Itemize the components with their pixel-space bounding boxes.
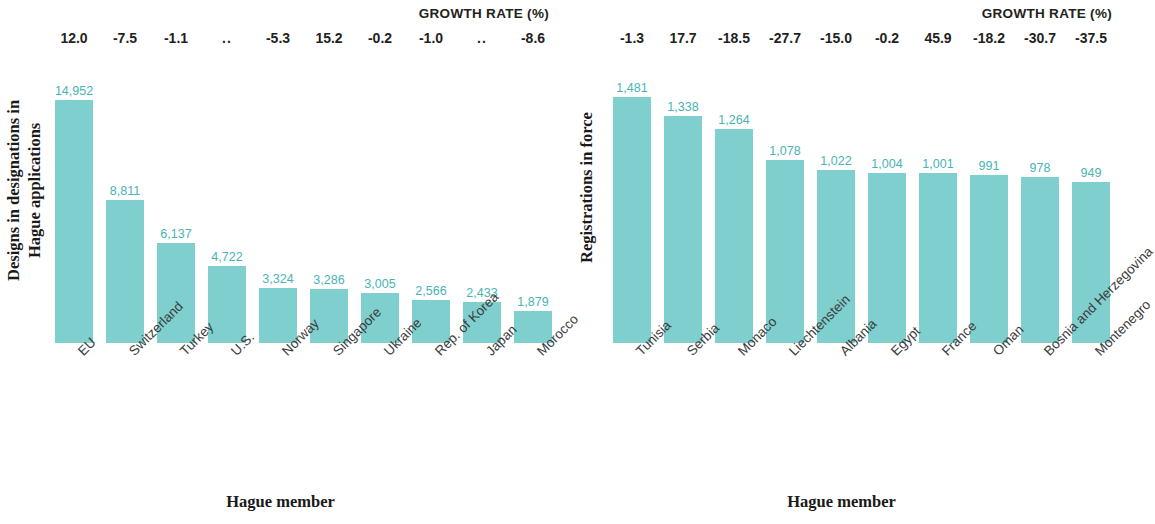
bar-value-label: 978 <box>1030 161 1051 175</box>
bar[interactable] <box>766 160 804 343</box>
bar-column[interactable]: 1,078 <box>766 85 804 343</box>
y-axis-title-left: Designs in designations in Hague applica… <box>4 70 45 310</box>
bar-column[interactable]: 1,879 <box>514 85 552 343</box>
growth-rate-value: -5.3 <box>253 30 303 46</box>
growth-rate-value: -1.3 <box>607 30 657 46</box>
bar-value-label: 3,324 <box>262 272 293 286</box>
growth-rate-header-left: GROWTH RATE (%) <box>419 6 549 21</box>
bar-value-label: 1,338 <box>667 100 698 114</box>
bar-value-label: 3,286 <box>313 273 344 287</box>
bar-column[interactable]: 1,004 <box>868 85 906 343</box>
bar-value-label: 1,078 <box>769 144 800 158</box>
bar-value-label: 4,722 <box>211 250 242 264</box>
growth-rate-value: -1.0 <box>406 30 456 46</box>
growth-rate-value: 45.9 <box>913 30 963 46</box>
bar[interactable] <box>919 173 957 343</box>
growth-rate-value: -18.5 <box>709 30 759 46</box>
bar[interactable] <box>1021 177 1059 343</box>
chart-panel-right: GROWTH RATE (%) -1.317.7-18.5-27.7-15.0-… <box>561 0 1122 524</box>
growth-rate-value: 15.2 <box>304 30 354 46</box>
chart-panel-left: GROWTH RATE (%) 12.0-7.5-1.1..-5.315.2-0… <box>0 0 561 524</box>
bar-value-label: 14,952 <box>55 84 93 98</box>
bar[interactable] <box>868 173 906 343</box>
growth-rate-value: .. <box>202 30 252 46</box>
growth-rate-value: -7.5 <box>100 30 150 46</box>
bar-value-label: 2,566 <box>415 284 446 298</box>
growth-rate-value: -0.2 <box>862 30 912 46</box>
bar[interactable] <box>715 129 753 343</box>
bar-value-label: 1,264 <box>718 113 749 127</box>
growth-rate-value: -15.0 <box>811 30 861 46</box>
bar[interactable] <box>55 100 93 343</box>
bar[interactable] <box>970 175 1008 343</box>
plot-area-right: 1,4811,3381,2641,0781,0221,0041,00199197… <box>613 85 1113 343</box>
bar-column[interactable]: 3,005 <box>361 85 399 343</box>
growth-rate-value: -30.7 <box>1015 30 1065 46</box>
growth-rate-value: 17.7 <box>658 30 708 46</box>
bar-column[interactable]: 1,338 <box>664 85 702 343</box>
bar-column[interactable]: 1,481 <box>613 85 651 343</box>
growth-rate-value: .. <box>457 30 507 46</box>
bar-column[interactable]: 1,001 <box>919 85 957 343</box>
bar-column[interactable]: 3,286 <box>310 85 348 343</box>
bar-column[interactable]: 8,811 <box>106 85 144 343</box>
growth-rate-value: 12.0 <box>49 30 99 46</box>
growth-rate-value: -37.5 <box>1066 30 1116 46</box>
x-axis-title-right: Hague member <box>561 492 1122 512</box>
bar-column[interactable]: 991 <box>970 85 1008 343</box>
growth-rate-value: -8.6 <box>508 30 558 46</box>
bar[interactable] <box>613 97 651 343</box>
bar-value-label: 991 <box>979 159 1000 173</box>
bar-value-label: 1,001 <box>922 157 953 171</box>
bar-value-label: 1,481 <box>616 81 647 95</box>
bar-column[interactable]: 14,952 <box>55 85 93 343</box>
bar-column[interactable]: 3,324 <box>259 85 297 343</box>
bar-value-label: 949 <box>1081 166 1102 180</box>
bar-column[interactable]: 978 <box>1021 85 1059 343</box>
bar-value-label: 1,004 <box>871 157 902 171</box>
growth-rate-value: -27.7 <box>760 30 810 46</box>
bar-column[interactable]: 4,722 <box>208 85 246 343</box>
bar-value-label: 1,022 <box>820 154 851 168</box>
bar-column[interactable]: 2,566 <box>412 85 450 343</box>
growth-rate-value: -0.2 <box>355 30 405 46</box>
bar-value-label: 8,811 <box>110 184 140 198</box>
y-axis-title-right: Registrations in force <box>577 78 598 298</box>
growth-rate-value: -18.2 <box>964 30 1014 46</box>
bar[interactable] <box>664 116 702 343</box>
growth-rate-value: -1.1 <box>151 30 201 46</box>
bar-value-label: 3,005 <box>364 277 395 291</box>
bar[interactable] <box>106 200 144 343</box>
x-axis-title-left: Hague member <box>0 492 561 512</box>
bar-column[interactable]: 1,264 <box>715 85 753 343</box>
bar-value-label: 1,879 <box>517 295 548 309</box>
bar-value-label: 6,137 <box>160 227 191 241</box>
growth-rate-header-right: GROWTH RATE (%) <box>982 6 1112 21</box>
